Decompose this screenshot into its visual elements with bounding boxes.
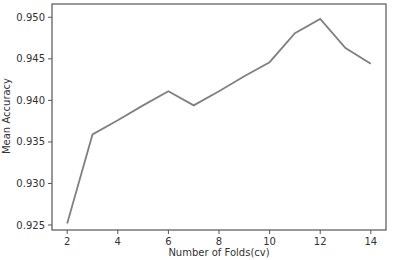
x-tick-label: 8	[216, 236, 222, 247]
y-axis-ticks: 0.9250.9300.9350.9400.9450.950	[16, 12, 52, 231]
plot-area	[52, 4, 386, 230]
x-tick-label: 4	[115, 236, 121, 247]
y-tick-label: 0.935	[16, 136, 45, 147]
x-tick-label: 12	[314, 236, 327, 247]
x-axis-label: Number of Folds(cv)	[168, 247, 269, 258]
x-tick-label: 2	[64, 236, 70, 247]
y-tick-label: 0.925	[16, 220, 45, 231]
x-axis-ticks: 2468101214	[64, 230, 377, 247]
y-tick-label: 0.940	[16, 95, 45, 106]
x-tick-label: 14	[364, 236, 377, 247]
y-tick-label: 0.945	[16, 53, 45, 64]
y-tick-label: 0.950	[16, 12, 45, 23]
line-chart: 0.9250.9300.9350.9400.9450.950 246810121…	[0, 0, 393, 260]
y-axis-label: Mean Accuracy	[1, 78, 12, 154]
x-tick-label: 10	[263, 236, 276, 247]
y-tick-label: 0.930	[16, 178, 45, 189]
x-tick-label: 6	[165, 236, 171, 247]
